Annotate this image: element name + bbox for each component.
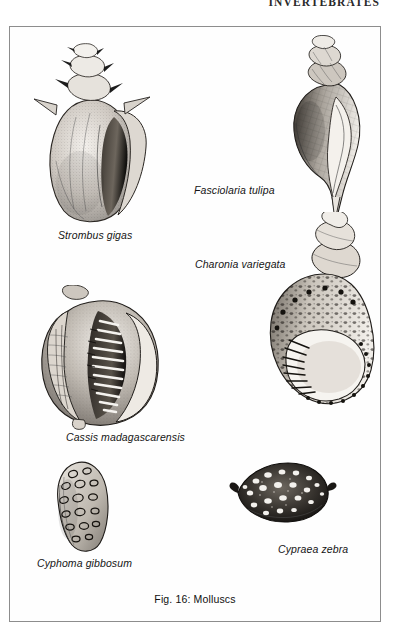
cyphoma-gibbosum-illustration [42,457,126,557]
specimen-charonia-variegata: Charonia variegata [253,212,383,417]
specimen-cyphoma-gibbosum: Cyphoma gibbosum [42,457,126,557]
cypraea-zebra-illustration [222,447,340,537]
figure-frame: Strombus gigas [9,26,381,622]
specimen-cassis-madagascarensis: Cassis madagascarensis [28,285,188,430]
specimen-label-strombus-gigas: Strombus gigas [58,229,132,241]
specimen-label-cyphoma-gibbosum: Cyphoma gibbosum [37,557,132,569]
specimen-fasciolaria-tulipa: Fasciolaria tulipa [274,35,378,225]
specimen-cypraea-zebra: Cypraea zebra [222,447,340,537]
charonia-variegata-illustration [253,212,383,417]
illustration-plate: Strombus gigas [10,27,380,621]
specimen-label-cassis-madagascarensis: Cassis madagascarensis [66,431,185,443]
figure-caption: Fig. 16: Molluscs [10,593,380,605]
specimen-strombus-gigas: Strombus gigas [22,43,162,228]
specimen-label-cypraea-zebra: Cypraea zebra [278,543,348,555]
cassis-madagascarensis-illustration [28,285,188,430]
strombus-gigas-illustration [22,43,162,228]
page-running-head: INVERTEBRATES [269,0,380,8]
specimen-label-charonia-variegata: Charonia variegata [195,258,286,270]
specimen-label-fasciolaria-tulipa: Fasciolaria tulipa [194,184,275,196]
fasciolaria-tulipa-illustration [274,35,378,225]
